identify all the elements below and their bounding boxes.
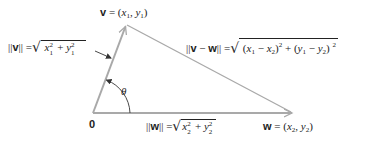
minus-sign: − (258, 42, 264, 54)
plus-sign: + (195, 120, 201, 132)
paren-close: ) (144, 6, 148, 18)
radical-icon: √ (172, 118, 181, 134)
w-symbol: w (263, 120, 272, 132)
norm-w-formula: ||w|| =√x22 + y22 (146, 119, 216, 133)
paren-close: ) (309, 120, 313, 132)
norm-v-formula: ||v|| =√ x21 + y21 (8, 40, 86, 54)
w-symbol: w (150, 120, 159, 132)
point-w-label: w = (x2, y2) (263, 121, 313, 134)
squared-superscript: 2 (279, 41, 283, 49)
v-symbol: v (100, 6, 106, 18)
equals-sign: = (274, 120, 280, 132)
y1-subscript: 1 (302, 48, 306, 56)
radicand: (x1 − x2)2 + (y1 − y2) 2 (239, 38, 338, 59)
norm-bars-close: || (217, 42, 221, 54)
squared-superscript: 2 (333, 41, 337, 49)
radicand: x21 + y21 (41, 40, 87, 54)
radicand: x22 + y22 (181, 119, 216, 133)
plus-sign: + (285, 42, 291, 54)
x1-subscript: 1 (251, 48, 255, 56)
paren-close: ) (326, 42, 330, 54)
plus-sign: + (57, 41, 63, 53)
angle-theta-label: θ (121, 86, 126, 97)
point-v-label: v = (x1, y1) (100, 7, 147, 20)
norm-v-pointer-arrow (95, 51, 111, 58)
minus-sign: − (199, 42, 205, 54)
x-subscript: 2 (187, 126, 191, 139)
y-subscript: 1 (71, 47, 75, 60)
radical-icon: √ (32, 39, 41, 55)
minus-sign: − (309, 42, 315, 54)
v-symbol: v (190, 42, 196, 54)
norm-bars-close: || (19, 41, 23, 53)
norm-bars-close: || (159, 120, 163, 132)
angle-theta-arc (107, 80, 131, 113)
equals-sign: = (109, 6, 115, 18)
radical-icon: √ (230, 40, 239, 56)
origin-label: 0 (89, 119, 95, 130)
y-subscript: 2 (209, 126, 213, 139)
comma: , (295, 120, 298, 132)
x-subscript: 1 (49, 47, 53, 60)
comma: , (130, 6, 133, 18)
norm-v-minus-w-formula: ||v − w|| =√ (x1 − x2)2 + (y1 − y2) 2 (186, 38, 338, 59)
vector-v-line (93, 27, 126, 114)
w-symbol: w (208, 42, 217, 54)
vector-distance-diagram: v = (x1, y1) ||v|| =√ x21 + y21 ||v − w|… (0, 0, 383, 141)
